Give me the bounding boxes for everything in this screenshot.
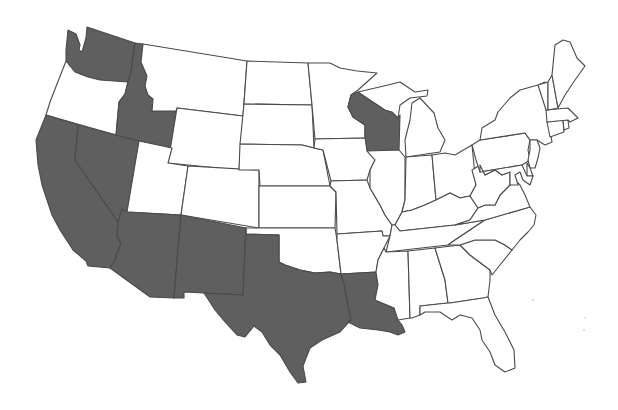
state-north-dakota[interactable]: [244, 61, 312, 105]
state-south-dakota[interactable]: [240, 104, 314, 148]
scan-artifact: [584, 317, 586, 319]
state-massachusetts[interactable]: [546, 108, 578, 122]
state-rhode-island[interactable]: [563, 120, 569, 130]
state-new-jersey[interactable]: [528, 140, 540, 168]
state-connecticut[interactable]: [547, 120, 564, 137]
state-arizona[interactable]: [110, 209, 181, 298]
state-new-mexico[interactable]: [174, 215, 246, 298]
state-maine[interactable]: [552, 40, 585, 108]
state-wyoming[interactable]: [168, 108, 243, 170]
state-kansas[interactable]: [259, 186, 336, 228]
scan-artifact: [583, 329, 585, 331]
state-montana[interactable]: [141, 44, 247, 116]
state-ohio[interactable]: [432, 145, 476, 200]
us-states-map: [0, 0, 618, 410]
scan-artifact: [532, 299, 534, 301]
state-florida[interactable]: [420, 297, 515, 372]
map-svg: [0, 0, 618, 410]
